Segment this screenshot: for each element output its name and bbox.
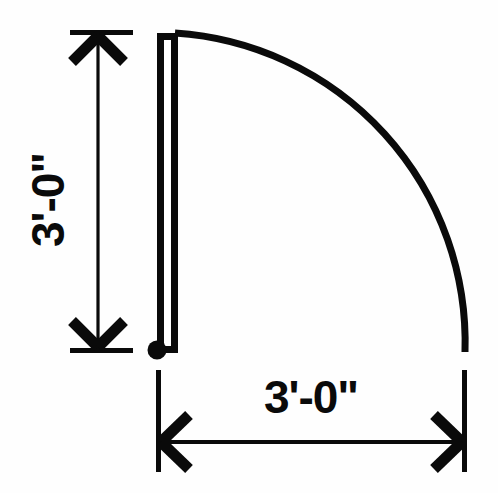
- horizontal-dimension-label: 3'-0": [264, 371, 358, 423]
- door-panel: [161, 37, 175, 350]
- door-plan-drawing: 3'-0": [0, 0, 498, 493]
- door-panel-rect: [161, 37, 175, 350]
- vertical-dimension: 3'-0": [22, 33, 133, 351]
- door-plan-canvas: 3'-0": [0, 0, 498, 493]
- horizontal-dimension: 3'-0": [158, 370, 465, 472]
- swing-arc: [175, 33, 465, 352]
- hinge-pivot-icon: [148, 341, 167, 360]
- vertical-dimension-label: 3'-0": [22, 153, 74, 247]
